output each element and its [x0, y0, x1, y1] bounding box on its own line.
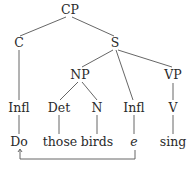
- node-s: S: [111, 36, 120, 50]
- node-infl-left: Infl: [8, 101, 29, 115]
- word-do: Do: [10, 135, 28, 149]
- word-trace-e: e: [130, 135, 137, 149]
- node-cp: CP: [61, 3, 79, 17]
- syntax-tree-diagram: CP C S NP VP Infl Det N Infl V Do those …: [0, 0, 195, 169]
- node-c: C: [14, 36, 24, 50]
- node-v: V: [168, 101, 177, 115]
- node-vp: VP: [164, 68, 181, 82]
- node-n: N: [92, 101, 103, 115]
- word-sing: sing: [160, 135, 186, 149]
- node-np: NP: [70, 68, 89, 82]
- word-those: those: [43, 135, 77, 149]
- node-infl-right: Infl: [123, 101, 144, 115]
- node-det: Det: [48, 101, 70, 115]
- word-birds: birds: [81, 135, 113, 149]
